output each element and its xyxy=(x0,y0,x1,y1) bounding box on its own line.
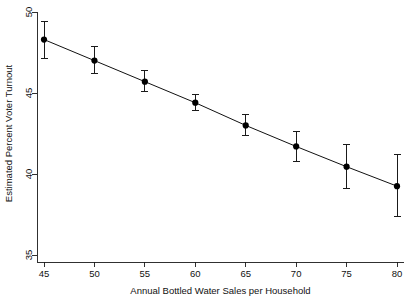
x-axis-title: Annual Bottled Water Sales per Household xyxy=(130,285,310,296)
data-point-marker xyxy=(343,164,349,170)
data-point-marker xyxy=(41,36,47,42)
x-tick-label: 45 xyxy=(39,268,50,279)
data-point-marker xyxy=(142,79,148,85)
data-point-marker xyxy=(293,143,299,149)
x-tick-label: 70 xyxy=(291,268,302,279)
axes-group xyxy=(37,12,404,262)
x-tick-label: 50 xyxy=(89,268,100,279)
x-tick-label: 75 xyxy=(341,268,352,279)
tick-marks-group xyxy=(32,12,397,267)
y-axis-title: Estimated Percent Voter Turnout xyxy=(3,64,14,202)
y-tick-label: 40 xyxy=(23,169,34,180)
axis-titles-group: Annual Bottled Water Sales per Household… xyxy=(3,64,311,296)
y-tick-label: 35 xyxy=(23,250,34,261)
y-tick-label: 45 xyxy=(23,88,34,99)
y-tick-label: 50 xyxy=(23,7,34,18)
chart-container: 354045504550556065707580 Annual Bottled … xyxy=(0,0,410,303)
x-tick-label: 60 xyxy=(190,268,201,279)
x-tick-label: 80 xyxy=(392,268,403,279)
x-tick-label: 65 xyxy=(240,268,251,279)
data-point-marker xyxy=(243,122,249,128)
data-series-group xyxy=(41,22,401,216)
data-point-marker xyxy=(192,100,198,106)
chart-plot-area: 354045504550556065707580 Annual Bottled … xyxy=(0,0,410,303)
x-tick-label: 55 xyxy=(140,268,151,279)
data-point-marker xyxy=(394,183,400,189)
data-point-marker xyxy=(91,58,97,64)
tick-labels-group: 354045504550556065707580 xyxy=(23,7,403,279)
